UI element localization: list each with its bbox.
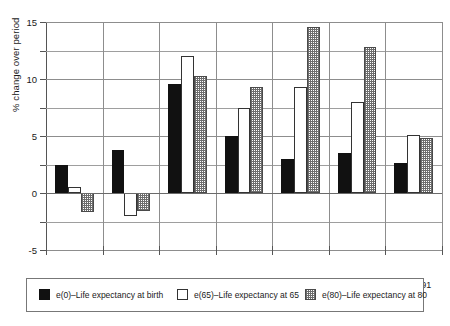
legend-item-e0: e(0)–Life expectancy at birth [39,289,163,300]
y-tick [40,79,46,80]
y-tick-label: 5 [32,131,37,142]
bar-e65-1951-61 [238,108,251,194]
bar-e0-1961-71 [281,159,294,193]
bar-e65-1961-71 [294,87,307,193]
x-tick [103,246,104,255]
y-tick [40,22,46,23]
y-tick-label: 0 [32,188,37,199]
bar-e80-1961-71 [307,27,320,193]
bar-e0-1941-51 [168,84,181,193]
gridline-minor [46,51,442,52]
bar-e80-1921-31 [81,193,94,212]
gridline-major [46,79,442,80]
y-tick-minor [40,51,46,52]
bar-e0-1981-91 [394,163,407,193]
y-axis-title: % change over period [10,0,26,112]
gridline-vertical [442,22,443,250]
bar-e0-1931-41 [112,150,125,193]
legend-label-e65: e(65)–Life expectancy at 65 [194,290,299,300]
y-tick [40,136,46,137]
x-tick [272,246,273,255]
gridline-vertical [329,22,330,250]
gridline-minor [46,222,442,223]
bar-e65-1941-51 [181,56,194,193]
x-tick [329,246,330,255]
gridline-major [46,22,442,23]
gridline-vertical [216,22,217,250]
gridline-vertical [272,22,273,250]
bar-e0-1951-61 [225,136,238,193]
plot-area: 151050-5 1921–311931–411941–511951–61196… [46,22,442,250]
gridline-major [46,250,442,251]
legend-swatch-e80-icon [305,289,316,300]
bar-e0-1971-81 [338,153,351,193]
legend-label-e0: e(0)–Life expectancy at birth [56,290,163,300]
legend-label-e80: e(80)–Life expectancy at 80 [322,290,427,300]
x-tick [385,246,386,255]
bar-e80-1971-81 [364,47,377,193]
y-tick-minor [40,165,46,166]
legend-item-e65: e(65)–Life expectancy at 65 [177,289,299,300]
bar-e65-1931-41 [124,193,137,216]
y-tick-label: 15 [26,17,37,28]
bar-e65-1971-81 [351,102,364,193]
bar-e0-1921-31 [55,165,68,194]
y-tick-label: -5 [29,245,37,256]
x-tick [216,246,217,255]
bar-e80-1951-61 [250,87,263,193]
bar-e80-1931-41 [137,193,150,211]
y-tick-minor [40,222,46,223]
bar-e80-1981-91 [420,138,433,193]
legend-swatch-e0-icon [39,289,50,300]
gridline-vertical [159,22,160,250]
y-tick-label: 10 [26,74,37,85]
bar-e80-1941-51 [194,76,207,193]
y-tick [40,193,46,194]
legend-item-e80: e(80)–Life expectancy at 80 [305,289,427,300]
y-tick-minor [40,108,46,109]
x-tick [159,246,160,255]
bar-e65-1981-91 [407,135,420,193]
bar-e65-1921-31 [68,187,81,193]
gridline-vertical [385,22,386,250]
gridline-vertical [103,22,104,250]
x-tick [46,246,47,255]
gridline-major [46,193,442,194]
bar-chart-figure: % change over period 151050-5 1921–31193… [0,0,450,326]
legend-swatch-e65-icon [177,289,188,300]
x-tick [442,246,443,255]
chart-legend: e(0)–Life expectancy at birth e(65)–Life… [26,278,424,312]
